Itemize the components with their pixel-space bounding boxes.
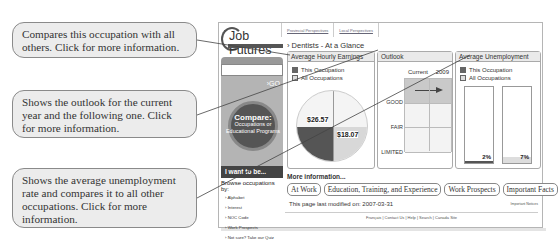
callout-text: Shows the average unemployment rate and … [22, 174, 176, 225]
bar-all-occupations: 7% [502, 86, 532, 164]
legend-dark-swatch [460, 67, 466, 73]
tab-provincial-perspectives[interactable]: Provincial Perspectives [281, 23, 333, 37]
important-notices-link[interactable]: Important Notices [511, 202, 538, 206]
breadcrumb-title: Dentists - At a Glance [292, 41, 365, 50]
browse-noc-code[interactable]: NOC Code [225, 215, 283, 220]
earnings-legend: This Occupation All Occupations [292, 66, 374, 82]
last-modified: This page last modified on: 2007-03-31 [289, 201, 393, 207]
this-earnings-value: $26.57 [307, 116, 328, 123]
grid-row-good [405, 79, 451, 104]
banner-title: Compare: [225, 114, 281, 121]
go-button[interactable]: ›GO [267, 80, 280, 87]
outlook-panel[interactable]: Outlook Current 2009 GOOD FAIR LIMITED [377, 51, 453, 169]
row-fair: FAIR [380, 124, 403, 130]
pie-this-slice [297, 127, 333, 162]
browse-list: Alphabet Interest NOC Code Work Prospect… [221, 195, 283, 240]
col-year: 2009 [436, 69, 449, 75]
browse-title: Browse occupations by: [221, 180, 283, 192]
outlook-title[interactable]: Outlook [378, 52, 452, 62]
col-current: Current [408, 69, 428, 75]
tab-local-perspectives[interactable]: Local Perspectives [333, 23, 379, 37]
browse-section: Browse occupations by: Alphabet Interest… [221, 180, 283, 240]
legend-light-swatch [460, 75, 466, 81]
top-tabs: Provincial Perspectives Local Perspectiv… [281, 23, 379, 37]
callout-earnings: Compares this occupation with all others… [12, 22, 197, 58]
callout-outlook: Shows the outlook for the current year a… [12, 90, 197, 138]
right-arrow-icon [415, 90, 437, 91]
legend-dark-swatch [292, 67, 298, 73]
pie-divider [333, 91, 334, 162]
earnings-title[interactable]: Average Hourly Earnings [288, 52, 374, 62]
bar-this-occupation: 2% [464, 86, 494, 164]
browse-alphabet[interactable]: Alphabet [225, 195, 283, 200]
bar-value: 7% [520, 154, 529, 160]
browse-quiz[interactable]: Not sure? Take our Quiz [225, 235, 283, 240]
i-want-to-be-button[interactable]: I want to be... [221, 166, 283, 178]
left-sidebar: ›GO Compare:Occupations or Educational P… [221, 55, 283, 225]
outlook-columns: Current 2009 [408, 69, 449, 75]
footer-links[interactable]: Français | Contact Us | Help | Search | … [285, 215, 538, 220]
grid-divider [429, 79, 430, 151]
outlook-grid [404, 78, 452, 152]
banner-text: Compare:Occupations or Educational Progr… [225, 114, 281, 135]
at-work-button[interactable]: At Work [287, 183, 321, 196]
legend-light-swatch [292, 75, 298, 81]
logo-subtitle-bar [228, 44, 283, 48]
work-prospects-button[interactable]: Work Prospects [444, 183, 499, 196]
legend-all: All Occupations [469, 75, 511, 81]
row-good: GOOD [380, 99, 403, 105]
more-info-buttons: At Work Education, Training, and Experie… [287, 183, 558, 196]
unemployment-panel[interactable]: Average Unemployment This Occupation All… [455, 51, 541, 169]
legend-this: This Occupation [301, 67, 344, 73]
grid-row-limited [405, 128, 451, 153]
search-header [221, 57, 283, 64]
legend-all: All Occupations [301, 75, 343, 81]
banner-subtitle: Occupations or Educational Programs [226, 121, 280, 134]
grid-row-fair [405, 104, 451, 129]
browse-interest[interactable]: Interest [225, 205, 283, 210]
bar-value: 2% [482, 154, 491, 160]
breadcrumb: › Dentists - At a Glance [287, 41, 364, 50]
earnings-panel[interactable]: Average Hourly Earnings This Occupation … [287, 51, 375, 169]
row-limited: LIMITED [380, 149, 403, 155]
callout-text: Shows the outlook for the current year a… [22, 96, 172, 134]
logo-title: Job Futures [229, 29, 283, 57]
search-input[interactable] [221, 64, 283, 76]
footer-divider [285, 212, 538, 213]
unemployment-title[interactable]: Average Unemployment [456, 52, 540, 62]
callout-unemployment: Shows the average unemployment rate and … [12, 168, 197, 228]
important-facts-button[interactable]: Important Facts [503, 183, 558, 196]
unemployment-legend: This Occupation All Occupations [460, 66, 540, 82]
education-button[interactable]: Education, Training, and Experience [324, 183, 442, 196]
more-info-title: More information... [287, 173, 346, 180]
earnings-pie-chart[interactable]: $26.57 $18.07 [296, 90, 368, 162]
compare-banner[interactable]: ›GO Compare:Occupations or Educational P… [221, 76, 283, 166]
callout-text: Compares this occupation with all others… [22, 28, 179, 53]
browse-work-prospects[interactable]: Work Prospects [225, 225, 283, 230]
job-futures-logo[interactable]: Job Futures [221, 27, 283, 49]
bar-fill [465, 161, 493, 163]
all-earnings-value: $18.07 [337, 131, 358, 138]
job-futures-page: Job Futures Provincial Perspectives Loca… [218, 22, 543, 228]
legend-this: This Occupation [469, 67, 512, 73]
